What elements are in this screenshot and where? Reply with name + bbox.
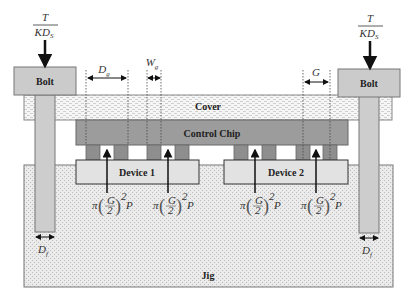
svg-text:(: ( [307, 196, 313, 217]
dim-dg-label: Dg [97, 63, 110, 78]
svg-text:P: P [273, 199, 281, 211]
svg-text:P: P [125, 199, 133, 211]
cover-label: Cover [195, 101, 222, 112]
jig-label: Jig [202, 270, 215, 281]
diagram-canvas: Jig Cover Bolt Bolt Control Chip Device … [0, 0, 411, 299]
svg-text:2: 2 [168, 204, 174, 216]
svg-text:T: T [42, 11, 49, 23]
svg-text:P: P [334, 199, 342, 211]
bolt-right-label: Bolt [360, 78, 378, 89]
svg-text:2: 2 [316, 204, 322, 216]
svg-text:KDS: KDS [359, 27, 379, 41]
force-right: T KDS [358, 12, 383, 68]
dim-wg-label: Wg [146, 56, 159, 71]
svg-text:T: T [367, 12, 374, 24]
control-chip-label: Control Chip [184, 128, 241, 139]
solder-bumps [86, 145, 337, 160]
bolt-right-shaft [359, 96, 379, 233]
device-2-label: Device 2 [268, 167, 304, 178]
svg-text:(: ( [98, 196, 104, 217]
bolt-left-shaft [35, 95, 55, 232]
force-left: T KDS [33, 11, 58, 66]
device-1-label: Device 1 [119, 167, 155, 178]
dim-g-label: G [312, 66, 320, 78]
svg-text:P: P [186, 199, 194, 211]
svg-text:KDS: KDS [34, 26, 54, 40]
svg-text:2: 2 [107, 204, 113, 216]
svg-text:(: ( [246, 196, 252, 217]
svg-text:(: ( [159, 196, 165, 217]
svg-text:2: 2 [255, 204, 261, 216]
bolt-left-label: Bolt [36, 76, 54, 87]
